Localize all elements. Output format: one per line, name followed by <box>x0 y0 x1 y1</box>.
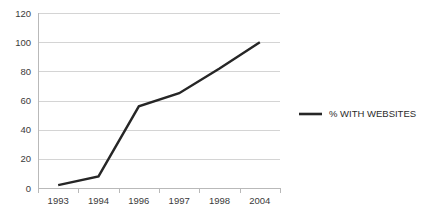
y-tick-label-0: 0 <box>26 183 31 194</box>
y-tick-label-80: 80 <box>20 66 31 77</box>
x-tick-label-1994: 1994 <box>88 195 109 206</box>
chart-canvas: 020406080100120 199319941996199719982004… <box>0 0 423 222</box>
line-chart: 020406080100120 199319941996199719982004… <box>0 0 423 222</box>
y-tick-label-100: 100 <box>15 37 31 48</box>
x-tick-label-1997: 1997 <box>169 195 190 206</box>
legend-label-pct-with-websites: % WITH WEBSITES <box>329 108 416 119</box>
x-tick-label-2004: 2004 <box>249 195 270 206</box>
y-tick-label-40: 40 <box>20 124 31 135</box>
x-tick-label-1998: 1998 <box>209 195 230 206</box>
y-tick-label-20: 20 <box>20 153 31 164</box>
y-tick-label-60: 60 <box>20 95 31 106</box>
x-tick-label-1996: 1996 <box>128 195 149 206</box>
x-tick-label-1993: 1993 <box>48 195 69 206</box>
y-tick-label-120: 120 <box>15 8 31 19</box>
